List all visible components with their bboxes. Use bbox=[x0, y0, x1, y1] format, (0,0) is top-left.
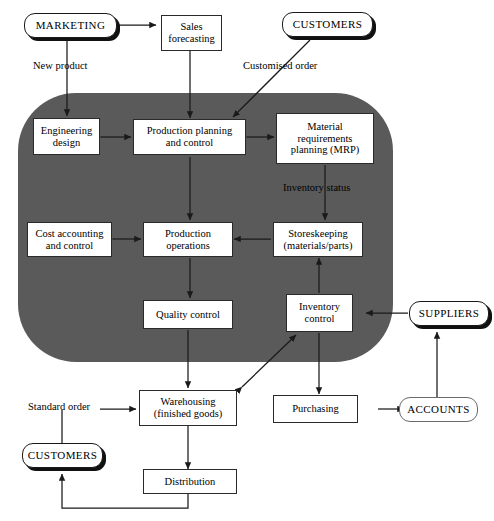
diagram-canvas: MARKETING Salesforecasting CUSTOMERS Eng… bbox=[0, 0, 494, 521]
node-mrp-label: Materialrequirementsplanning (MRP) bbox=[291, 121, 360, 156]
node-accounts-label: ACCOUNTS bbox=[407, 403, 470, 415]
node-storeskeeping[interactable]: Storeskeeping(materials/parts) bbox=[273, 222, 363, 257]
node-quality-control[interactable]: Quality control bbox=[143, 300, 233, 329]
node-production-planning[interactable]: Production planningand control bbox=[133, 119, 246, 155]
edge-label-new-product: New product bbox=[33, 60, 88, 71]
node-customers-bottom[interactable]: CUSTOMERS bbox=[22, 443, 103, 468]
node-customers-top[interactable]: CUSTOMERS bbox=[282, 12, 373, 37]
node-warehousing[interactable]: Warehousing(finished goods) bbox=[139, 390, 237, 426]
edge-label-customised-order: Customised order bbox=[243, 60, 317, 71]
node-suppliers[interactable]: SUPPLIERS bbox=[409, 301, 489, 326]
node-mrp[interactable]: Materialrequirementsplanning (MRP) bbox=[276, 113, 374, 164]
node-inventory-control-label: Inventorycontrol bbox=[299, 301, 340, 325]
node-purchasing[interactable]: Purchasing bbox=[273, 395, 358, 423]
node-purchasing-label: Purchasing bbox=[292, 403, 339, 415]
node-distribution-label: Distribution bbox=[165, 476, 216, 488]
node-accounts[interactable]: ACCOUNTS bbox=[399, 397, 478, 422]
node-storeskeeping-label: Storeskeeping(materials/parts) bbox=[284, 228, 353, 252]
node-engineering-design[interactable]: Engineeringdesign bbox=[33, 118, 100, 155]
node-marketing[interactable]: MARKETING bbox=[24, 13, 117, 38]
node-cost-accounting[interactable]: Cost accountingand control bbox=[27, 222, 112, 257]
node-warehousing-label: Warehousing(finished goods) bbox=[154, 396, 223, 420]
node-engineering-design-label: Engineeringdesign bbox=[41, 125, 92, 149]
node-cost-accounting-label: Cost accountingand control bbox=[36, 228, 104, 252]
node-sales-forecasting[interactable]: Salesforecasting bbox=[161, 15, 222, 51]
node-customers-bottom-label: CUSTOMERS bbox=[28, 449, 97, 461]
node-customers-top-label: CUSTOMERS bbox=[293, 18, 362, 30]
node-production-operations-label: Productionoperations bbox=[165, 228, 211, 252]
edge-label-inventory-status: Inventory status bbox=[283, 182, 350, 193]
node-quality-control-label: Quality control bbox=[156, 309, 220, 321]
node-production-operations[interactable]: Productionoperations bbox=[143, 222, 233, 257]
node-distribution[interactable]: Distribution bbox=[143, 469, 237, 494]
node-production-planning-label: Production planningand control bbox=[147, 125, 232, 149]
node-sales-forecasting-label: Salesforecasting bbox=[168, 21, 215, 45]
node-marketing-label: MARKETING bbox=[36, 19, 106, 31]
node-suppliers-label: SUPPLIERS bbox=[419, 307, 479, 319]
node-inventory-control[interactable]: Inventorycontrol bbox=[286, 294, 353, 332]
edge-label-standard-order: Standard order bbox=[28, 401, 90, 412]
